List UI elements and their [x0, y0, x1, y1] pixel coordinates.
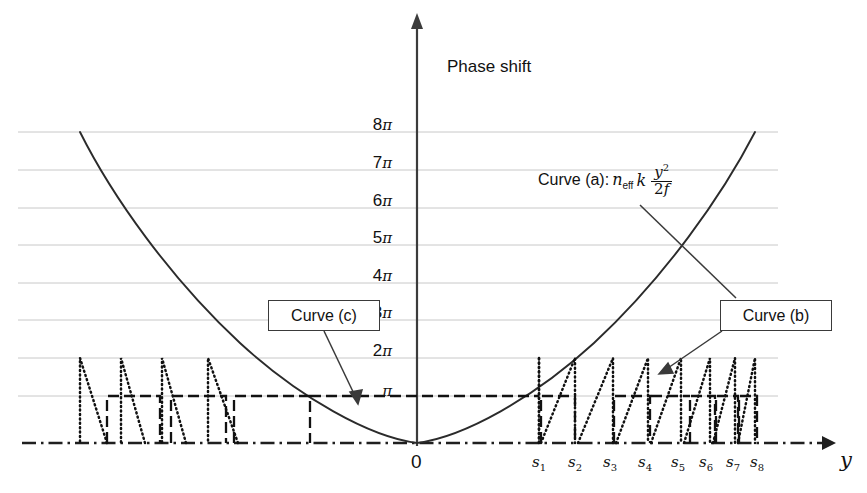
curve-b-callout-label: Curve (b) — [743, 307, 810, 325]
x-tick-label-s7: s7 — [726, 455, 740, 473]
curve-a-annotation: Curve (a): neff k y2 2f — [538, 163, 672, 198]
y-tick-label-4pi: 4π — [373, 267, 392, 284]
y-tick-label-7pi: 7π — [373, 154, 392, 171]
x-tick-label-s1: s1 — [532, 455, 546, 473]
origin-label: 0 — [411, 452, 422, 471]
y-tick-label-2pi: 2π — [373, 342, 392, 359]
y-tick-label-pi: π — [382, 382, 392, 399]
y-tick-label-8pi: 8π — [373, 116, 392, 133]
curve-c-square-wave — [107, 396, 757, 443]
phase-shift-figure: Phase shift 8π 7π 6π 5π 4π 3π 2π π 0 s1 … — [0, 0, 867, 493]
curve-c-callout[interactable]: Curve (c) — [268, 300, 380, 331]
curve-a-prefix: Curve (a): — [538, 171, 609, 189]
y-tick-label-6pi: 6π — [373, 192, 392, 209]
x-tick-label-s8: s8 — [750, 455, 764, 473]
curve-c-callout-label: Curve (c) — [291, 307, 357, 325]
plot-canvas — [0, 0, 867, 493]
x-tick-label-s3: s3 — [603, 455, 617, 473]
curve-a-k: k — [636, 171, 646, 190]
x-tick-label-s6: s6 — [699, 455, 713, 473]
x-tick-label-s5: s5 — [671, 455, 685, 473]
y-axis-title: Phase shift — [447, 58, 531, 75]
curve-a-denominator: 2f — [651, 181, 672, 198]
x-tick-label-s4: s4 — [638, 455, 652, 473]
curve-a-n-eff: neff — [612, 170, 633, 191]
curve-a-numerator: y2 — [651, 163, 672, 181]
x-tick-label-s2: s2 — [568, 455, 582, 473]
curve-b-callout[interactable]: Curve (b) — [720, 300, 832, 331]
y-tick-label-5pi: 5π — [373, 229, 392, 246]
y-axis — [411, 13, 423, 446]
x-axis-label: y — [840, 450, 852, 471]
curve-a-fraction: y2 2f — [651, 163, 672, 198]
